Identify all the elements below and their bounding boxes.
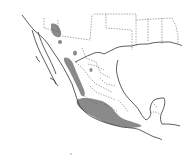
coastline	[22, 15, 182, 140]
stray-mark	[70, 153, 71, 154]
range-map	[0, 0, 195, 163]
range-shading	[51, 24, 142, 128]
